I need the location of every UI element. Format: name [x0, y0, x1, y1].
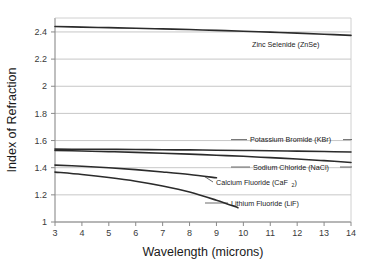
x-tick-label-10: 10 [238, 228, 248, 238]
x-tick-label-4: 4 [79, 228, 84, 238]
x-tick-label-7: 7 [160, 228, 165, 238]
x-tick-label-12: 12 [292, 228, 302, 238]
x-tick-label-9: 9 [214, 228, 219, 238]
series-label-nacl: Sodium Chloride (NaCl) [253, 163, 329, 172]
x-tick-label-8: 8 [187, 228, 192, 238]
y-tick-label-1-4: 1.4 [34, 163, 47, 173]
series-label-caf2: Calcium Fluoride (CaF [216, 178, 289, 187]
x-axis-title: Wavelength (microns) [142, 245, 263, 259]
x-tick-label-11: 11 [266, 228, 275, 238]
series-label-caf2-tail: ) [295, 178, 297, 187]
y-tick-label-1: 1 [42, 217, 47, 227]
x-tick-label-13: 13 [319, 228, 329, 238]
y-tick-label-2-2: 2.2 [34, 54, 47, 64]
y-tick-label-1-6: 1.6 [34, 136, 47, 146]
y-tick-label-2-4: 2.4 [34, 27, 47, 37]
series-label-znse: Zinc Selenide (ZnSe) [252, 40, 320, 49]
x-tick-marks [55, 222, 351, 226]
y-tick-marks [51, 32, 55, 222]
y-tick-label-1-2: 1.2 [34, 190, 47, 200]
series-label-kbr: Potassium Bromide (KBr) [250, 135, 331, 144]
x-tick-label-14: 14 [346, 228, 356, 238]
x-tick-label-5: 5 [106, 228, 111, 238]
x-tick-label-6: 6 [133, 228, 138, 238]
refractive-index-chart: 1 1.2 1.4 1.6 1.8 2 2.2 2.4 3 4 5 6 7 8 … [0, 0, 365, 267]
y-tick-label-2: 2 [42, 81, 47, 91]
x-tick-label-3: 3 [52, 228, 57, 238]
y-tick-label-1-8: 1.8 [34, 109, 47, 119]
y-axis-title: Index of Refraction [5, 67, 19, 172]
series-label-lif: Lithium Fluoride (LiF) [231, 199, 299, 208]
series-label-caf2-group: Calcium Fluoride (CaF 2 ) [216, 178, 297, 188]
y-tick-labels: 1 1.2 1.4 1.6 1.8 2 2.2 2.4 [34, 27, 47, 227]
x-tick-labels: 3 4 5 6 7 8 9 10 11 12 13 14 [52, 228, 356, 238]
chart-canvas: 1 1.2 1.4 1.6 1.8 2 2.2 2.4 3 4 5 6 7 8 … [0, 0, 365, 267]
